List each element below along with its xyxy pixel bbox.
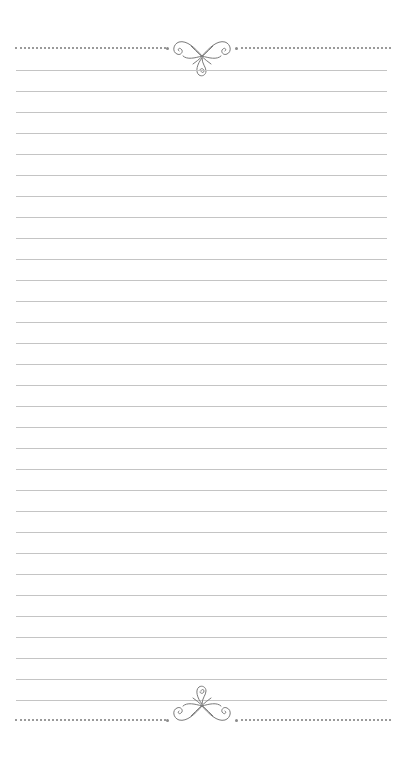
ruled-line xyxy=(16,427,387,428)
ruled-line xyxy=(16,637,387,638)
bottom-dotted-border-left xyxy=(15,719,166,721)
ruled-line xyxy=(16,511,387,512)
ruled-line xyxy=(16,574,387,575)
ruled-line xyxy=(16,70,387,71)
ruled-line xyxy=(16,343,387,344)
bottom-flourish-icon xyxy=(171,684,233,728)
ruled-line xyxy=(16,616,387,617)
ruled-line xyxy=(16,406,387,407)
ruled-line xyxy=(16,196,387,197)
ruled-line xyxy=(16,91,387,92)
ruled-line xyxy=(16,259,387,260)
top-border-dot-left xyxy=(166,47,169,50)
ruled-line xyxy=(16,133,387,134)
notepaper xyxy=(0,0,408,761)
bottom-border-dot-right xyxy=(235,719,238,722)
ruled-line xyxy=(16,469,387,470)
ruled-line xyxy=(16,679,387,680)
top-dotted-border-left xyxy=(15,47,166,49)
ruled-line xyxy=(16,595,387,596)
ruled-line xyxy=(16,658,387,659)
ruled-line xyxy=(16,553,387,554)
ruled-line xyxy=(16,238,387,239)
bottom-dotted-border-right xyxy=(241,719,391,721)
ruled-line xyxy=(16,217,387,218)
ruled-line xyxy=(16,112,387,113)
ruled-line xyxy=(16,364,387,365)
ruled-line xyxy=(16,532,387,533)
ruled-line xyxy=(16,322,387,323)
ruled-line xyxy=(16,490,387,491)
ruled-line xyxy=(16,175,387,176)
ruled-line xyxy=(16,448,387,449)
ruled-line xyxy=(16,385,387,386)
top-dotted-border-right xyxy=(241,47,391,49)
ruled-line xyxy=(16,280,387,281)
bottom-border-dot-left xyxy=(166,719,169,722)
ruled-line xyxy=(16,301,387,302)
ruled-line xyxy=(16,154,387,155)
top-border-dot-right xyxy=(235,47,238,50)
top-flourish-icon xyxy=(171,34,233,78)
